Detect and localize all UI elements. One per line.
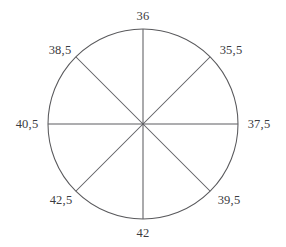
tick-label-bottom-right: 39,5 — [229, 194, 252, 207]
tick-label-right: 37,5 — [259, 118, 282, 131]
tick-label-bottom: 42 — [143, 227, 156, 240]
tick-label-top: 36 — [143, 10, 156, 23]
tick-label-bottom-left: 42,5 — [61, 194, 84, 207]
tick-label-left: 40,5 — [27, 118, 50, 131]
circular-scale-diagram: 36 35,5 37,5 39,5 42 42,5 40,5 38,5 — [0, 0, 286, 247]
tick-label-top-left: 38,5 — [60, 44, 83, 57]
tick-label-top-right: 35,5 — [231, 44, 254, 57]
